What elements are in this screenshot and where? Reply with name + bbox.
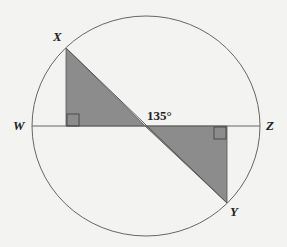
label-x: X (52, 29, 62, 44)
label-y: Y (230, 204, 239, 219)
geometry-diagram: X Y W Z 135° (0, 0, 287, 247)
angle-label: 135° (147, 108, 172, 123)
label-w: W (13, 118, 26, 133)
label-z: Z (265, 118, 274, 133)
